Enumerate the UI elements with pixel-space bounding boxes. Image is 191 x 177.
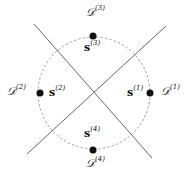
label-s4: s(4) xyxy=(84,128,100,139)
label-d2: 𝒟(2) xyxy=(7,86,26,97)
point-4-dot xyxy=(90,147,97,154)
label-d1: 𝒟(1) xyxy=(161,86,180,97)
label-d3: 𝒟(3) xyxy=(86,7,105,18)
label-s2: s(2) xyxy=(49,87,65,98)
label-d4: 𝒟(4) xyxy=(86,158,105,169)
point-2-dot xyxy=(37,90,44,97)
point-1-dot xyxy=(147,90,154,97)
label-s1: s(1) xyxy=(127,87,143,98)
label-s3: s(3) xyxy=(84,42,100,53)
